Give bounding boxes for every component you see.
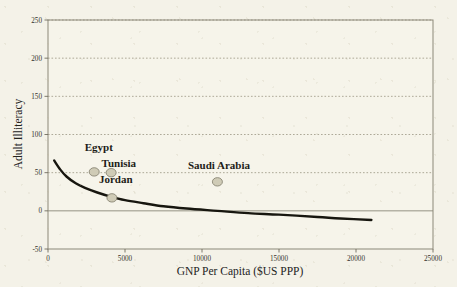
y-axis-ticks bbox=[45, 20, 49, 249]
y-tick-label: -50 bbox=[32, 246, 42, 254]
y-tick-label: 0 bbox=[38, 207, 42, 215]
y-tick-label: 100 bbox=[31, 131, 42, 139]
x-tick-label: 10000 bbox=[193, 255, 211, 263]
y-tick-label: 50 bbox=[35, 169, 43, 177]
y-axis-title: Adult Illiteracy bbox=[12, 98, 25, 169]
x-axis-ticks bbox=[48, 249, 433, 253]
x-tick-label: 0 bbox=[46, 255, 50, 263]
y-axis-tick-labels: -50050100150200250 bbox=[31, 17, 42, 254]
data-point-marker bbox=[107, 194, 117, 202]
x-tick-label: 15000 bbox=[270, 255, 288, 263]
data-point-label: Tunisia bbox=[102, 157, 137, 169]
data-point-label: Jordan bbox=[99, 173, 133, 185]
data-point-label: Saudi Arabia bbox=[188, 159, 251, 171]
scatter-chart-svg: -50050100150200250 050001000015000200002… bbox=[0, 0, 457, 287]
data-point-marker bbox=[212, 178, 222, 186]
x-axis-tick-labels: 0500010000150002000025000 bbox=[46, 255, 442, 263]
y-tick-label: 200 bbox=[31, 55, 42, 63]
x-axis-title: GNP Per Capita ($US PPP) bbox=[177, 265, 304, 278]
y-tick-label: 150 bbox=[31, 93, 42, 101]
data-point-marker bbox=[89, 168, 99, 176]
x-tick-label: 20000 bbox=[347, 255, 365, 263]
x-tick-label: 5000 bbox=[118, 255, 133, 263]
y-tick-label: 250 bbox=[31, 17, 42, 25]
chart-root: -50050100150200250 050001000015000200002… bbox=[0, 0, 457, 287]
x-tick-label: 25000 bbox=[424, 255, 442, 263]
data-point-label: Egypt bbox=[85, 141, 113, 153]
